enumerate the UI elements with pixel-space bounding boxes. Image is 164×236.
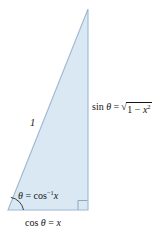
adjacent-side-label: cos θ = x	[25, 218, 61, 228]
hypotenuse-value: 1	[30, 117, 35, 128]
square-root-expression: √ 1 − x2	[121, 102, 151, 115]
cos-function-name: cos	[34, 190, 47, 201]
adjacent-value: x	[56, 217, 60, 228]
radicand: 1 − x2	[126, 102, 151, 115]
radicand-exponent: 2	[147, 103, 150, 110]
sin-function-name: sin	[92, 102, 104, 112]
equals-sign: =	[114, 102, 120, 112]
triangle-shape	[8, 9, 88, 210]
angle-argument: x	[54, 190, 58, 201]
opposite-side-label: sin θ = √ 1 − x2	[92, 102, 152, 115]
inverse-exponent: −1	[47, 189, 54, 196]
angle-theta-label: θ = cos−1x	[18, 190, 58, 201]
cos-function-name: cos	[25, 217, 38, 228]
hypotenuse-length-label: 1	[30, 118, 35, 129]
